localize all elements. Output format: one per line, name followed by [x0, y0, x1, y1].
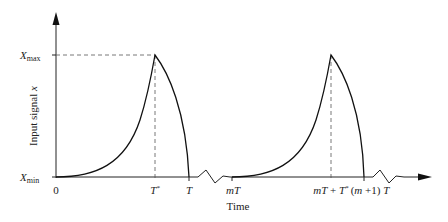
axis-break-1-icon: [198, 170, 230, 183]
y-axis-title: Input signal x: [27, 86, 39, 146]
tick-t-star: T*: [150, 184, 160, 196]
axis-break-2-icon: [373, 170, 404, 183]
tick-mt: mT: [226, 184, 241, 196]
pulse-1-curve: [56, 55, 189, 177]
tick-t: T: [186, 184, 193, 196]
y-axis: [53, 12, 60, 178]
pulse-2-curve: [232, 55, 364, 177]
x-axis-arrow-icon: [418, 174, 432, 181]
tick-zero: 0: [53, 184, 59, 196]
waveform-diagram: Xmax Xmin Input signal x 0 T* T mT mT + …: [0, 0, 448, 222]
x-axis-title: Time: [227, 200, 250, 212]
tick-m-plus-1-t: (m +1) T: [351, 184, 391, 197]
tick-mt-plus-t-star: mT + T*: [313, 184, 349, 196]
xmin-label: Xmin: [19, 171, 39, 185]
y-axis-arrow-icon: [53, 12, 60, 25]
xmax-label: Xmax: [19, 49, 41, 63]
